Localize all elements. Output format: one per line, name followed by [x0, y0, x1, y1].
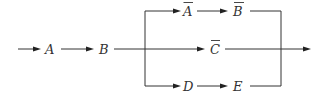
node-b-bar: B	[232, 4, 243, 19]
node-a: A	[44, 42, 54, 57]
arrow-split-to-a-bar	[145, 9, 181, 14]
node-b: B	[98, 42, 109, 57]
output-arrow	[225, 47, 311, 52]
arrow-b-to-c-bar	[114, 47, 205, 52]
arrow-a-to-b	[61, 47, 94, 52]
arrow-split-to-d	[145, 84, 181, 89]
input-arrow	[18, 47, 41, 52]
node-e: E	[232, 79, 243, 94]
arrow-d-to-e	[197, 84, 228, 89]
arrow-a-bar-to-b-bar	[197, 9, 228, 14]
node-a-bar: A	[182, 4, 192, 19]
node-d: D	[182, 79, 194, 94]
block-diagram: A B C A B D E	[0, 0, 327, 97]
node-c-bar: C	[210, 42, 220, 57]
